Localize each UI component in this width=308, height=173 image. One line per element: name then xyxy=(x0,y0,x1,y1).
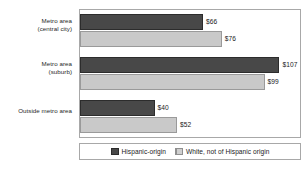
bar-hispanic-origin xyxy=(80,57,279,73)
category-axis-labels: Metro area (central city) Metro area (su… xyxy=(0,9,76,138)
legend-swatch-icon xyxy=(111,148,119,155)
bar-white-not-hispanic xyxy=(80,117,177,133)
bar-row-white-not-hispanic: $76 xyxy=(80,31,300,47)
bar-value-label: $107 xyxy=(282,61,297,69)
category-label-line-2: (suburb) xyxy=(0,68,72,76)
bar-value-label: $66 xyxy=(206,18,217,26)
bar-value-label: $40 xyxy=(158,104,169,112)
bar-value-label: $99 xyxy=(268,78,279,86)
bar-row-hispanic-origin: $66 xyxy=(80,14,300,30)
category-label-line-1: Metro area xyxy=(42,17,72,24)
bar-row-white-not-hispanic: $99 xyxy=(80,74,300,90)
legend-swatch-icon xyxy=(175,148,183,155)
bar-value-label: $52 xyxy=(180,121,191,129)
bar-hispanic-origin xyxy=(80,14,203,30)
bar-group-metro-central-city: $66 $76 xyxy=(80,14,300,50)
legend-item-white-not-hispanic[interactable]: White, not of Hispanic origin xyxy=(175,148,270,156)
plot-area: $66 $76 $107 $99 $40 $5 xyxy=(79,9,301,138)
legend-label: Hispanic-origin xyxy=(122,148,166,156)
category-label-metro-suburb: Metro area (suburb) xyxy=(0,60,72,75)
bar-row-white-not-hispanic: $52 xyxy=(80,117,300,133)
bar-group-metro-suburb: $107 $99 xyxy=(80,57,300,93)
bar-group-outside-metro: $40 $52 xyxy=(80,100,300,136)
bar-hispanic-origin xyxy=(80,100,155,116)
bar-row-hispanic-origin: $107 xyxy=(80,57,300,73)
bar-value-label: $76 xyxy=(225,35,236,43)
bar-chart-figure: Metro area (central city) Metro area (su… xyxy=(0,0,308,173)
legend-item-hispanic-origin[interactable]: Hispanic-origin xyxy=(111,148,166,156)
category-label-outside-metro: Outside metro area xyxy=(0,107,72,115)
category-label-line-1: Outside metro area xyxy=(18,107,72,114)
category-label-line-2: (central city) xyxy=(0,25,72,33)
bar-white-not-hispanic xyxy=(80,74,265,90)
bar-row-hispanic-origin: $40 xyxy=(80,100,300,116)
chart-legend: Hispanic-origin White, not of Hispanic o… xyxy=(79,143,301,160)
bar-white-not-hispanic xyxy=(80,31,222,47)
category-label-metro-central-city: Metro area (central city) xyxy=(0,17,72,32)
category-label-line-1: Metro area xyxy=(42,60,72,67)
legend-label: White, not of Hispanic origin xyxy=(186,148,270,156)
